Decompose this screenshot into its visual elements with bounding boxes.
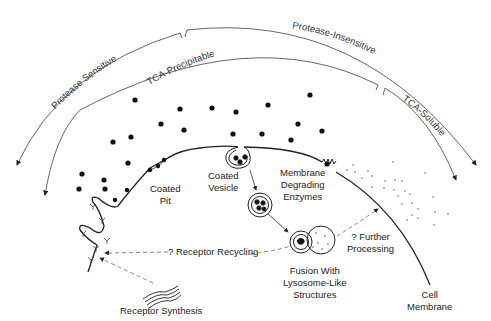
fusion-line3: Structures <box>283 289 347 301</box>
label-coated-pit: Coated Pit <box>150 183 181 207</box>
label-fusion: Fusion With Lysosome-Like Structures <box>283 265 347 301</box>
fp-line2: Processing <box>347 243 394 255</box>
coated-vesicle-budding <box>226 147 251 168</box>
label-membrane-degrading-enzymes: Membrane Degrading Enzymes <box>280 167 325 203</box>
cm-line1: Cell <box>407 289 452 301</box>
diagram-canvas: Protease Sensitive Protease-Insensitive … <box>0 0 491 321</box>
coated-pit-line2: Pit <box>150 195 181 207</box>
cm-line2: Membrane <box>407 301 452 313</box>
mde-line3: Enzymes <box>280 191 325 203</box>
coated-vesicle-line1: Coated <box>208 170 239 182</box>
label-tca-precipitable: TCA-Precipitable <box>145 48 216 87</box>
label-protease-sensitive: Protease Sensitive <box>49 53 118 111</box>
degradation-products <box>346 161 448 225</box>
inner-arc-tca-soluble <box>383 88 456 180</box>
receptor-recycling-arrow <box>105 252 168 253</box>
label-cell-membrane: Cell Membrane <box>407 289 452 313</box>
fusion-line2: Lysosome-Like <box>283 277 347 289</box>
fusion-line1: Fusion With <box>283 265 347 277</box>
receptor-synthesis-arrow <box>100 258 153 283</box>
free-coated-vesicle <box>248 193 272 217</box>
outer-arc-protease-sensitive <box>17 33 182 165</box>
label-receptor-synthesis: Receptor Synthesis <box>120 305 202 317</box>
ligand-at-membrane <box>324 161 329 166</box>
mde-line1: Membrane <box>280 167 325 179</box>
coated-pit-line1: Coated <box>150 183 181 195</box>
label-protease-insensitive: Protease-Insensitive <box>292 19 378 56</box>
fp-line1: ? Further <box>347 231 394 243</box>
outer-arc-protease-insensitive <box>185 28 476 165</box>
mde-line2: Degrading <box>280 179 325 191</box>
receptor-symbols <box>80 204 110 263</box>
label-further-processing: ? Further Processing <box>347 231 394 255</box>
fusion-lysosome <box>290 226 335 254</box>
label-coated-vesicle: Coated Vesicle <box>208 170 239 194</box>
label-receptor-recycling: ? Receptor Recycling <box>168 246 258 258</box>
label-tca-soluble: TCA-Soluble <box>401 93 448 138</box>
coated-vesicle-line2: Vesicle <box>208 182 239 194</box>
